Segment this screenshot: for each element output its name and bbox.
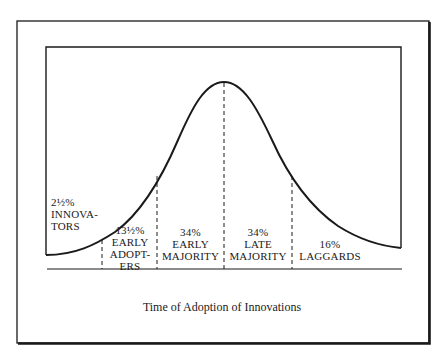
early-majority-line1: EARLY <box>158 238 223 250</box>
late-majority-line1: LATE <box>225 238 291 250</box>
laggards-line1: LAGGARDS <box>295 250 365 262</box>
early-adopters-line1: EARLY <box>106 236 154 248</box>
outer-frame <box>17 21 429 343</box>
innovators-pct: 2½% <box>51 196 98 208</box>
label-laggards: 16% LAGGARDS <box>295 238 365 262</box>
early-majority-pct: 34% <box>158 226 223 238</box>
label-late-majority: 34% LATE MAJORITY <box>225 226 291 262</box>
innovators-line1: INNOVA- <box>51 208 98 220</box>
label-early-majority: 34% EARLY MAJORITY <box>158 226 223 262</box>
label-early-adopters: 13½% EARLY ADOPT- ERS <box>106 224 154 272</box>
early-adopters-line3: ERS <box>106 260 154 272</box>
early-majority-line2: MAJORITY <box>158 250 223 262</box>
late-majority-pct: 34% <box>225 226 291 238</box>
label-innovators: 2½% INNOVA- TORS <box>51 196 98 232</box>
laggards-pct: 16% <box>295 238 365 250</box>
innovators-line2: TORS <box>51 220 98 232</box>
early-adopters-line2: ADOPT- <box>106 248 154 260</box>
diagram-caption: Time of Adoption of Innovations <box>0 300 444 315</box>
early-adopters-pct: 13½% <box>106 224 154 236</box>
late-majority-line2: MAJORITY <box>225 250 291 262</box>
